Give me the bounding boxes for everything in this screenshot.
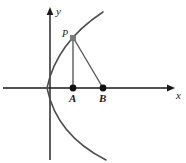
point-a-label: A	[69, 93, 76, 104]
y-axis-arrowhead	[47, 7, 54, 15]
point-p-marker	[70, 35, 76, 41]
point-b-marker	[100, 85, 107, 92]
segment-pb	[74, 39, 103, 88]
x-axis-arrowhead	[167, 85, 175, 92]
x-axis-label: x	[176, 90, 181, 101]
y-axis-label: y	[56, 6, 61, 17]
figure-canvas	[0, 0, 186, 163]
point-b-label: B	[99, 93, 106, 104]
parabola-curve	[47, 12, 106, 160]
geometry-figure: y x P A B	[0, 0, 186, 163]
point-a-marker	[70, 85, 77, 92]
point-p-label: P	[62, 29, 68, 39]
